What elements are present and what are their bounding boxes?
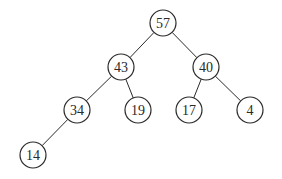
tree-node-17: 17: [176, 97, 202, 123]
node-label: 19: [131, 103, 145, 118]
node-label: 17: [182, 103, 196, 118]
tree-nodes: 574340341917414: [20, 10, 263, 168]
binary-tree-diagram: 574340341917414: [0, 0, 282, 179]
tree-edge-57-43: [130, 32, 154, 57]
node-label: 57: [156, 16, 170, 31]
tree-edge-43-34: [86, 76, 111, 101]
node-label: 40: [199, 60, 213, 75]
tree-edge-57-40: [172, 32, 197, 57]
tree-node-57: 57: [150, 10, 176, 36]
tree-node-4: 4: [237, 97, 263, 123]
tree-edge-34-14: [42, 119, 68, 145]
tree-node-14: 14: [20, 142, 46, 168]
tree-node-40: 40: [193, 54, 219, 80]
tree-node-19: 19: [125, 97, 151, 123]
tree-node-34: 34: [64, 97, 90, 123]
node-label: 4: [247, 103, 254, 118]
tree-edges: [42, 32, 241, 145]
node-label: 14: [26, 148, 40, 163]
node-label: 34: [70, 103, 84, 118]
tree-edge-43-19: [126, 79, 133, 98]
tree-node-43: 43: [108, 54, 134, 80]
node-label: 43: [114, 60, 128, 75]
tree-edge-40-17: [194, 79, 201, 98]
tree-edge-40-4: [215, 76, 240, 101]
